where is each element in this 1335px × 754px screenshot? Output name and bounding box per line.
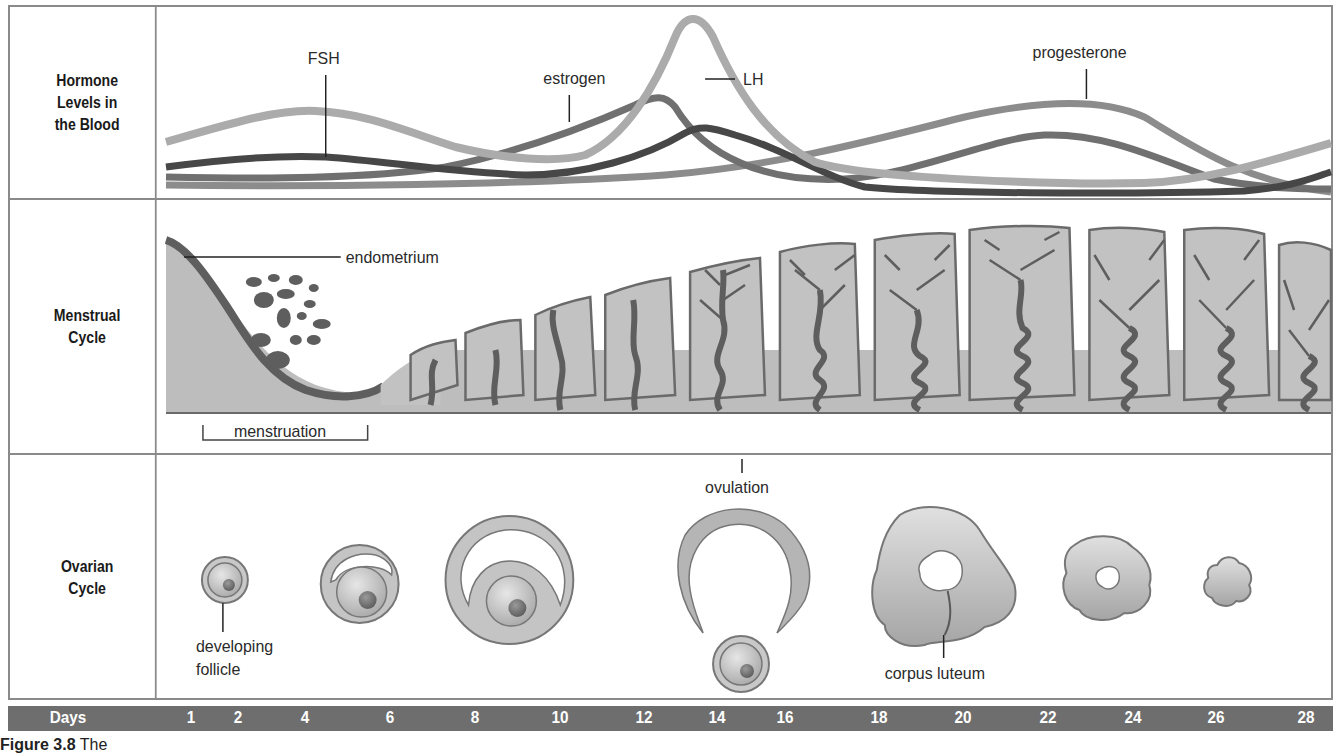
- corpus-luteum-label: corpus luteum: [885, 665, 985, 682]
- endometrium-illustration: endometrium menstruation: [166, 200, 1331, 453]
- diagram-frame: Hormone Levels in the Blood FSH estrogen…: [8, 5, 1333, 700]
- developing-follicle-label-2: follicle: [196, 661, 240, 678]
- follicle-drawing: developing follicle ovul: [166, 455, 1331, 700]
- day-tick: 4: [301, 708, 310, 728]
- day-tick: 12: [635, 708, 652, 728]
- day-tick: 8: [471, 708, 480, 728]
- menstrual-row-label: Menstrual Cycle: [19, 200, 156, 453]
- day-tick: 16: [776, 708, 793, 728]
- day-tick: 6: [386, 708, 395, 728]
- ovarian-illustration: developing follicle ovul: [166, 455, 1331, 700]
- day-tick: 1: [187, 708, 196, 728]
- hormone-chart: FSH estrogen LH progesterone: [166, 7, 1331, 198]
- tertiary-follicle: [446, 516, 574, 644]
- day-tick: 14: [708, 708, 725, 728]
- corpus-luteum: [872, 507, 1015, 646]
- days-axis: Days 1 2 4 6 8 10 12 14 16 18 20 22 24 2…: [8, 706, 1333, 731]
- day-tick: 26: [1207, 708, 1224, 728]
- endometrium-drawing: endometrium menstruation: [166, 200, 1331, 453]
- day-tick: 10: [551, 708, 568, 728]
- ovarian-row-label: Ovarian Cycle: [19, 455, 156, 700]
- day-tick: 2: [234, 708, 243, 728]
- figure-number: Figure 3.8: [0, 736, 76, 753]
- hormone-row-label: Hormone Levels in the Blood: [19, 7, 156, 198]
- ruptured-follicle: [678, 509, 810, 633]
- lh-label: LH: [743, 71, 763, 88]
- day-tick: 18: [870, 708, 887, 728]
- endometrium-label: endometrium: [346, 249, 439, 266]
- released-ovum: [713, 636, 769, 692]
- regressing-corpus-luteum: [1063, 536, 1150, 620]
- fsh-label: FSH: [308, 50, 340, 67]
- ovarian-row: Ovarian Cycle: [10, 455, 1331, 700]
- hormone-row: Hormone Levels in the Blood FSH estrogen…: [10, 7, 1331, 200]
- ovulation-label: ovulation: [705, 479, 769, 496]
- hormone-curves: FSH estrogen LH progesterone: [166, 7, 1331, 198]
- day-tick: 28: [1297, 708, 1314, 728]
- day-tick: 22: [1039, 708, 1056, 728]
- days-label: Days: [50, 708, 87, 728]
- day-tick: 20: [954, 708, 971, 728]
- estrogen-label: estrogen: [543, 70, 605, 87]
- menstrual-row: Menstrual Cycle: [10, 200, 1331, 455]
- figure-caption: Figure 3.8 The: [0, 736, 107, 754]
- developing-follicle-label-1: developing: [196, 638, 273, 655]
- primary-follicle: [202, 557, 248, 603]
- progesterone-label: progesterone: [1033, 44, 1127, 61]
- caption-text: The: [76, 736, 108, 753]
- day-tick: 24: [1124, 708, 1141, 728]
- corpus-albicans: [1204, 557, 1251, 606]
- menstruation-label: menstruation: [234, 423, 326, 440]
- secondary-follicle: [321, 545, 399, 623]
- endometrial-glands: [381, 226, 1331, 405]
